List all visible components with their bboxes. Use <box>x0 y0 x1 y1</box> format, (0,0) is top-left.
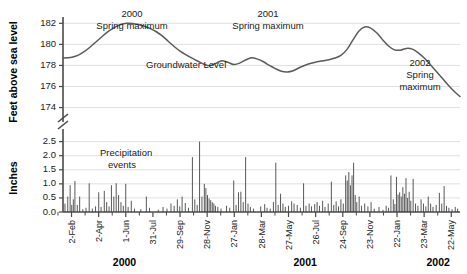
x-axis-tick-label: 22-May <box>446 220 456 251</box>
x-axis-tick-label: 31-Jul <box>148 220 158 245</box>
precipitation-ytick-label: 0.5 <box>43 191 56 202</box>
precipitation-ytick-labels: 0.00.51.01.52.02.5 <box>43 135 56 216</box>
groundwater-series-label: Groundwater Level <box>146 59 226 70</box>
precipitation-series-label: Precipitationevents <box>100 147 152 170</box>
x-axis-tick-label: 28-Mar <box>257 220 267 249</box>
annotation-2000-text: Spring maximum <box>96 20 167 31</box>
groundwater-ytick-label: 180 <box>40 38 56 49</box>
x-axis-year-label: 2001 <box>293 256 317 268</box>
x-axis-year-label: 2002 <box>426 256 450 268</box>
x-axis-tick-label: 2-Apr <box>94 220 104 242</box>
x-axis-tick-labels: 2-Feb2-Apr1-Jun31-Jul29-Sep28-Nov27-Jan2… <box>67 220 457 251</box>
precipitation-label-line2: events <box>108 159 136 170</box>
x-axis-tick-label: 1-Jun <box>121 220 131 243</box>
groundwater-ytick-label: 178 <box>40 59 56 70</box>
axis-break-marker <box>58 114 68 136</box>
annotation-2001-text: Spring maximum <box>232 20 303 31</box>
annotation-2000-year: 2000 <box>121 8 142 19</box>
precipitation-label-line1: Precipitation <box>100 147 152 158</box>
x-axis-tick-label: 22-Jan <box>392 220 402 248</box>
precipitation-ytick-label: 1.0 <box>43 177 56 188</box>
precipitation-y-axis-title: Inches <box>7 161 19 194</box>
x-axis-tick-label: 27-Jan <box>229 220 239 248</box>
x-axis-tick-label: 2-Feb <box>67 220 77 244</box>
annotation-2000-spring-maximum: 2000 Spring maximum <box>96 8 167 31</box>
x-axis-tick-label: 26-Jul <box>311 220 321 245</box>
x-axis-tick-label: 24-Sep <box>338 220 348 249</box>
precipitation-ytick-label: 0.0 <box>43 206 56 217</box>
chart-figure: 174176178180182 Groundwater Level 2000 S… <box>0 0 467 274</box>
x-axis-tick-label: 29-Sep <box>175 220 185 249</box>
x-axis-tick-label: 28-Nov <box>202 220 212 250</box>
groundwater-ytick-label: 182 <box>40 17 56 28</box>
precipitation-ytick-label: 2.0 <box>43 149 56 160</box>
annotation-2001-year: 2001 <box>257 8 278 19</box>
annotation-2002-spring-maximum: 2002 Spring maximum <box>399 57 440 92</box>
annotation-2002-text-line2: maximum <box>399 81 440 92</box>
x-axis-year-label: 2000 <box>113 256 137 268</box>
x-axis-year-labels: 200020012002 <box>113 256 450 268</box>
x-axis-tick-label: 23-Nov <box>365 220 375 250</box>
annotation-2002-year: 2002 <box>409 57 430 68</box>
hydrograph-svg: 174176178180182 Groundwater Level 2000 S… <box>0 0 467 274</box>
groundwater-gridlines <box>63 23 460 107</box>
annotation-2001-spring-maximum: 2001 Spring maximum <box>232 8 303 31</box>
x-axis-tick-label: 23-Mar <box>419 220 429 249</box>
precipitation-ytick-label: 2.5 <box>43 135 56 146</box>
groundwater-ytick-label: 174 <box>40 101 56 112</box>
x-axis-tick-label: 27-May <box>284 220 294 251</box>
groundwater-ytick-label: 176 <box>40 80 56 91</box>
precipitation-ytick-label: 1.5 <box>43 163 56 174</box>
groundwater-ytick-labels: 174176178180182 <box>40 17 56 112</box>
annotation-2002-text-line1: Spring <box>406 69 433 80</box>
precipitation-panel: 0.00.51.01.52.02.5 Precipitationevents I… <box>7 135 460 268</box>
groundwater-panel: 174176178180182 Groundwater Level 2000 S… <box>7 8 460 136</box>
groundwater-y-axis-title: Feet above sea level <box>7 21 19 123</box>
